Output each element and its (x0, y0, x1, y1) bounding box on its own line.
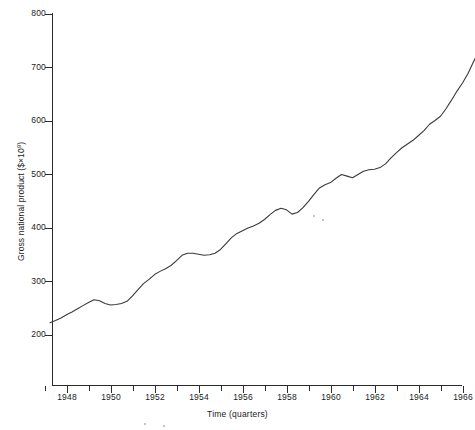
scan-speck (322, 219, 324, 221)
gnp-data-line (50, 51, 475, 323)
scan-speck (313, 215, 315, 217)
scan-speck (163, 425, 165, 427)
scan-speck (144, 423, 146, 425)
gnp-time-series-chart: 800 700 600 500 400 300 200 1948 1950 19… (0, 0, 475, 430)
plot-area (0, 0, 475, 430)
